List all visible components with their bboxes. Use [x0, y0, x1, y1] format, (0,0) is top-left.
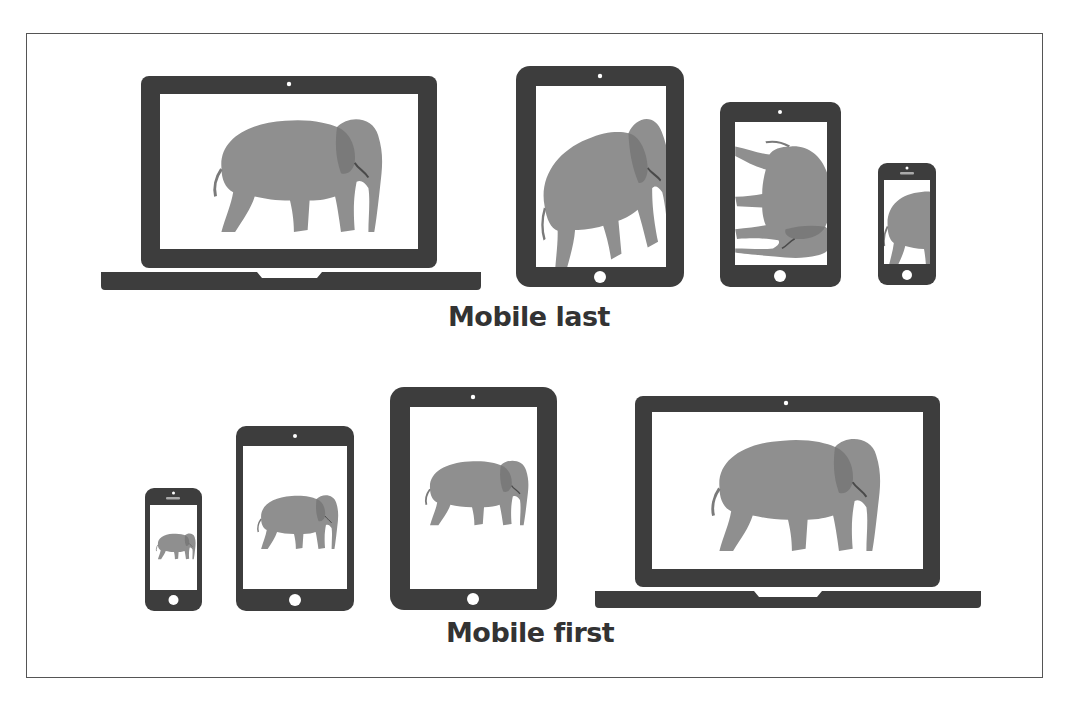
laptop-camera-icon: [287, 82, 291, 86]
tablet-home-button: [774, 270, 786, 282]
mobile-first-laptop: [595, 396, 981, 608]
tablet-home-button: [289, 594, 301, 606]
laptop-camera-icon: [784, 401, 788, 405]
phone-home-button: [169, 595, 179, 605]
mobile-first-label: Mobile first: [446, 617, 614, 648]
mobile-first-phone: [145, 488, 202, 611]
mobile-last-label: Mobile last: [448, 301, 610, 332]
phone-home-button: [902, 270, 912, 280]
laptop-base: [101, 272, 481, 290]
tablet-camera-icon: [471, 395, 475, 399]
phone-speaker: [900, 172, 914, 175]
tablet-camera-icon: [293, 434, 297, 438]
mobile-last-laptop: [101, 76, 481, 290]
tablet-camera-icon: [778, 110, 782, 114]
mobile-last-tablet-large: [516, 66, 684, 287]
mobile-last-tablet-medium: [720, 102, 841, 287]
tablet-home-button: [594, 271, 606, 283]
tablet-camera-icon: [598, 74, 602, 78]
device-illustration: [0, 0, 1071, 702]
tablet-home-button: [467, 593, 479, 605]
mobile-first-tablet-medium: [236, 426, 354, 611]
mobile-first-tablet-large: [390, 387, 557, 610]
laptop-base: [595, 591, 981, 608]
elephant-image-cropped: [884, 191, 973, 272]
phone-camera-icon: [172, 492, 175, 495]
mobile-last-phone: [878, 163, 973, 285]
phone-camera-icon: [906, 167, 909, 170]
phone-speaker: [166, 497, 180, 500]
